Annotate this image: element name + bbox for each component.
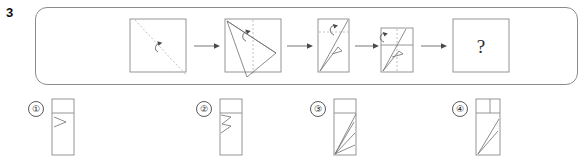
- option-4-label: ④: [452, 101, 468, 117]
- arrow-1: [194, 43, 220, 49]
- panel-4-small-square-with-diagonal: [380, 28, 413, 72]
- arrow-2: [287, 43, 313, 49]
- option-4-figure: [474, 97, 534, 159]
- panel-5-answer-placeholder-panel: ?: [453, 19, 509, 72]
- arrow-3: [355, 43, 379, 49]
- option-4[interactable]: ④: [452, 92, 572, 163]
- arrow-4: [421, 43, 447, 49]
- panel-3-narrow-rectangle-with-diagonals: [318, 19, 349, 72]
- option-1[interactable]: ①: [28, 92, 148, 163]
- option-2-figure: [218, 97, 278, 159]
- option-3-figure: [332, 97, 392, 159]
- option-1-label: ①: [28, 101, 44, 117]
- option-1-figure: [50, 97, 110, 159]
- panel-2-folded-triangle-shape: [225, 19, 281, 77]
- option-3[interactable]: ③: [310, 92, 430, 163]
- fold-sequence: ?: [35, 7, 578, 85]
- question-number: 3: [6, 6, 13, 20]
- answer-options: ① ② ③: [0, 92, 588, 163]
- option-3-label: ③: [310, 101, 326, 117]
- option-2[interactable]: ②: [196, 92, 316, 163]
- question-mark-text: ?: [477, 36, 485, 57]
- worksheet-page: 3: [0, 0, 588, 163]
- option-2-label: ②: [196, 101, 212, 117]
- panel-1-square-with-diagonal-fold-line: [130, 19, 187, 76]
